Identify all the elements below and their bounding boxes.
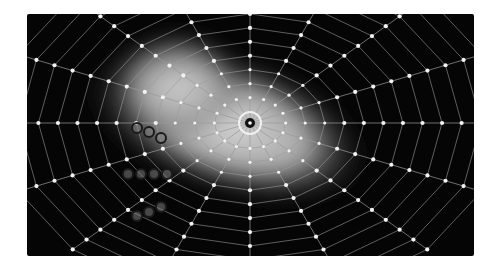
gradient-blob: [63, 14, 392, 237]
spiderweb-image: [27, 14, 474, 256]
web-graphic: [27, 14, 474, 256]
